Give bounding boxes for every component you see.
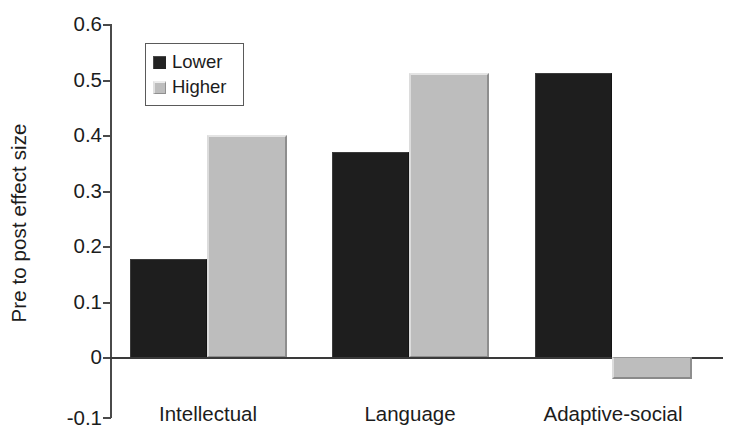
y-tick-label: 0.2 [40, 236, 102, 257]
x-tick-label-language: Language [364, 404, 455, 425]
bar-intellectual-higher [207, 135, 287, 357]
y-tick-label: 0.4 [40, 125, 102, 146]
y-tick-label: 0.5 [40, 70, 102, 91]
legend-swatch-higher-icon [153, 81, 166, 94]
y-tick-label: 0.6 [40, 14, 102, 35]
x-tick-label-intellectual: Intellectual [159, 404, 257, 425]
bar-adaptive-social-lower [535, 73, 612, 357]
x-tick-label-adaptive-social: Adaptive-social [543, 404, 682, 425]
bar-language-higher [409, 73, 489, 357]
y-tick-label: 0.1 [40, 292, 102, 313]
legend-item-lower: Lower [153, 50, 243, 75]
legend-label-lower: Lower [172, 53, 222, 72]
bar-adaptive-social-higher [612, 357, 692, 379]
y-tick-label: 0.3 [40, 181, 102, 202]
y-tick-label: -0.1 [40, 408, 102, 429]
bar-language-lower [332, 152, 409, 357]
bar-chart: Pre to post effect size 0.6 0.5 0.4 0.3 … [0, 0, 731, 446]
legend-swatch-lower-icon [153, 56, 166, 69]
bar-intellectual-lower [130, 259, 207, 357]
y-axis-title: Pre to post effect size [0, 0, 38, 446]
y-axis-tick-labels: 0.6 0.5 0.4 0.3 0.2 0.1 0 -0.1 [38, 0, 102, 446]
chart-legend: Lower Higher [145, 43, 244, 106]
y-tick-label: 0 [40, 347, 102, 368]
legend-label-higher: Higher [172, 78, 227, 97]
legend-item-higher: Higher [153, 75, 243, 100]
